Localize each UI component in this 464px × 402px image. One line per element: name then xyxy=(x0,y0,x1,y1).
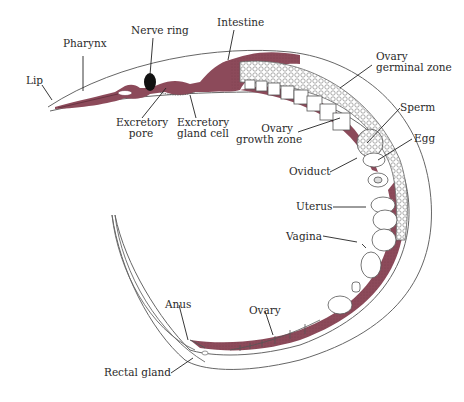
egg-shape xyxy=(363,153,385,167)
vagina-shape xyxy=(362,244,366,248)
label-excretory-pore: Excretory pore xyxy=(116,117,166,139)
spermatheca xyxy=(357,129,383,157)
label-excretory-pore-line2: pore xyxy=(116,128,166,139)
label-ovary-growth-line2: growth zone xyxy=(236,134,296,145)
pharynx-shape xyxy=(55,60,232,109)
label-egg: Egg xyxy=(414,133,435,144)
nematode-anatomy-diagram: Lip Pharynx Nerve ring Intestine Excreto… xyxy=(0,0,464,402)
label-rectal-gland: Rectal gland xyxy=(104,367,171,378)
label-ovary-growth-zone: Ovary growth zone xyxy=(236,123,296,145)
pharynx-bulb-lumen xyxy=(118,91,132,96)
label-sperm: Sperm xyxy=(400,102,435,113)
label-lip: Lip xyxy=(26,75,43,86)
label-excretory-gland-cell: Excretory gland cell xyxy=(177,117,229,139)
rectal-gland-shape xyxy=(202,351,208,355)
nerve-ring-shape xyxy=(144,73,156,91)
label-ovary-germinal-line2: germinal zone xyxy=(376,62,452,73)
label-pharynx: Pharynx xyxy=(63,38,107,49)
label-nerve-ring: Nerve ring xyxy=(131,25,189,36)
label-vagina: Vagina xyxy=(286,231,322,242)
label-ovary: Ovary xyxy=(249,305,281,316)
label-intestine: Intestine xyxy=(217,17,264,28)
label-anus: Anus xyxy=(165,299,192,310)
label-oviduct: Oviduct xyxy=(289,166,330,177)
label-excretory-gland-line2: gland cell xyxy=(177,128,229,139)
label-uterus: Uterus xyxy=(296,201,332,212)
label-ovary-germinal-zone: Ovary germinal zone xyxy=(376,51,452,73)
